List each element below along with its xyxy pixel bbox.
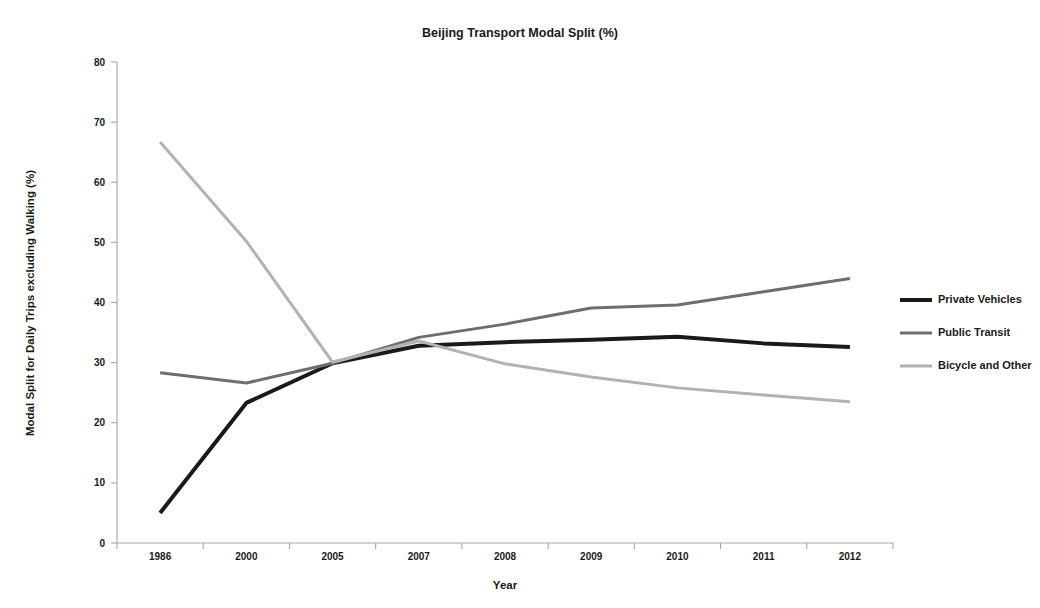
x-tick-label: 2011 xyxy=(753,551,775,562)
x-tick-label: 2005 xyxy=(321,551,344,562)
y-axis-ticks: 01020304050607080 xyxy=(94,57,117,549)
chart-container: Beijing Transport Modal Split (%) Modal … xyxy=(0,0,1040,608)
y-tick-label: 50 xyxy=(94,237,106,248)
x-tick-label: 2010 xyxy=(666,551,689,562)
y-axis-title: Modal Split for Daily Trips excluding Wa… xyxy=(24,170,36,436)
line-chart: Beijing Transport Modal Split (%) Modal … xyxy=(0,0,1040,608)
series-lines-group xyxy=(160,142,850,513)
y-tick-label: 20 xyxy=(94,417,106,428)
y-tick-label: 60 xyxy=(94,177,106,188)
y-tick-label: 30 xyxy=(94,357,106,368)
series-line-public-transit xyxy=(160,278,850,383)
legend-label-private-vehicles: Private Vehicles xyxy=(938,293,1022,305)
y-tick-label: 0 xyxy=(99,538,105,549)
chart-title: Beijing Transport Modal Split (%) xyxy=(422,26,618,40)
y-tick-label: 80 xyxy=(94,57,106,68)
x-tick-label: 1986 xyxy=(149,551,172,562)
x-axis-ticks: 198620002005200720082009201020112012 xyxy=(117,543,893,562)
x-tick-label: 2000 xyxy=(235,551,258,562)
legend-label-public-transit: Public Transit xyxy=(938,326,1010,338)
x-axis-title: Year xyxy=(493,579,518,591)
y-tick-label: 70 xyxy=(94,117,106,128)
legend-label-bicycle-and-other: Bicycle and Other xyxy=(938,359,1032,371)
y-tick-label: 10 xyxy=(94,477,106,488)
y-tick-label: 40 xyxy=(94,297,106,308)
chart-legend: Private VehiclesPublic TransitBicycle an… xyxy=(900,293,1032,371)
x-tick-label: 2012 xyxy=(839,551,862,562)
x-tick-label: 2007 xyxy=(408,551,431,562)
x-tick-label: 2009 xyxy=(580,551,603,562)
x-tick-label: 2008 xyxy=(494,551,517,562)
series-line-bicycle-and-other xyxy=(160,142,850,402)
